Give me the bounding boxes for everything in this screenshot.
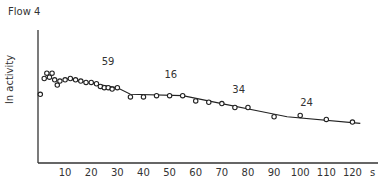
data-point bbox=[84, 80, 88, 84]
x-tick-label: 20 bbox=[85, 167, 98, 178]
data-point bbox=[324, 117, 328, 121]
x-tick-label: 100 bbox=[291, 167, 310, 178]
annotation-label: 16 bbox=[164, 69, 177, 80]
data-point bbox=[63, 78, 67, 82]
data-point bbox=[220, 101, 224, 105]
x-tick-label: 50 bbox=[163, 167, 176, 178]
x-tick-label: 70 bbox=[215, 167, 228, 178]
data-point bbox=[38, 92, 42, 96]
annotation-label: 59 bbox=[102, 56, 115, 67]
data-point bbox=[194, 99, 198, 103]
data-point bbox=[128, 95, 132, 99]
x-tick-label: 90 bbox=[268, 167, 281, 178]
axes bbox=[38, 30, 378, 163]
x-tick-label: 110 bbox=[317, 167, 336, 178]
data-point bbox=[73, 78, 77, 82]
data-point bbox=[350, 120, 354, 124]
data-point bbox=[272, 115, 276, 119]
annotation-label: 34 bbox=[232, 84, 245, 95]
data-point bbox=[89, 80, 93, 84]
data-point bbox=[58, 79, 62, 83]
data-point bbox=[298, 113, 302, 117]
x-tick-label: 120 bbox=[343, 167, 362, 178]
data-point bbox=[52, 78, 56, 82]
chart-plot: 102030405060708090100110120 s 59163424 bbox=[0, 0, 391, 183]
data-point bbox=[246, 105, 250, 109]
x-tick-labels: 102030405060708090100110120 bbox=[59, 167, 362, 178]
x-tick-label: 30 bbox=[111, 167, 124, 178]
data-point bbox=[154, 93, 158, 97]
data-point bbox=[50, 71, 54, 75]
annotation-label: 24 bbox=[300, 97, 313, 108]
x-tick-label: 80 bbox=[242, 167, 255, 178]
data-point bbox=[233, 105, 237, 109]
x-tick-label: 60 bbox=[189, 167, 202, 178]
data-point bbox=[115, 86, 119, 90]
data-point bbox=[180, 93, 184, 97]
data-point bbox=[68, 76, 72, 80]
data-point bbox=[42, 76, 46, 80]
x-axis-unit: s bbox=[370, 167, 375, 178]
x-tick-label: 10 bbox=[59, 167, 72, 178]
data-point bbox=[207, 100, 211, 104]
data-point bbox=[141, 95, 145, 99]
data-point bbox=[167, 93, 171, 97]
data-point bbox=[79, 79, 83, 83]
data-point bbox=[110, 87, 114, 91]
x-tick-label: 40 bbox=[137, 167, 150, 178]
